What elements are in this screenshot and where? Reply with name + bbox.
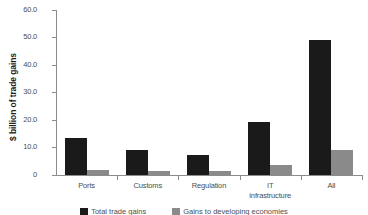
x-axis-category-label-line: Ports — [78, 181, 95, 190]
bar — [187, 155, 209, 175]
x-axis-category-label: Regulation — [178, 181, 239, 191]
x-axis-category-label-line: IT — [267, 181, 273, 190]
x-axis-tick-mark — [362, 175, 363, 180]
bar — [209, 171, 231, 175]
legend-label: Total trade gains — [91, 208, 146, 215]
x-axis-category-label: All — [301, 181, 362, 191]
y-axis-tick-label: 0 — [33, 170, 37, 179]
y-axis-tick-label: 40.0 — [23, 60, 37, 69]
y-axis-title: $ billion of trade gains — [8, 17, 18, 177]
x-axis-category-label: Customs — [117, 181, 178, 191]
x-axis-tick-mark — [117, 175, 118, 180]
x-axis-category-label: ITinfrastructure — [240, 181, 301, 200]
y-axis-tick-label: 10.0 — [23, 142, 37, 151]
chart-legend: Total trade gainsGains to developing eco… — [0, 208, 368, 215]
y-axis-tick-mark — [52, 175, 57, 176]
bar — [331, 150, 353, 175]
x-axis-category-label-line: infrastructure — [240, 191, 301, 201]
legend-entry[interactable]: Total trade gains — [80, 208, 146, 215]
legend-entry[interactable]: Gains to developing economies — [172, 208, 288, 215]
bar — [248, 122, 270, 175]
bar-chart: $ billion of trade gains 010.020.030.040… — [0, 0, 368, 215]
y-axis-tick-mark — [52, 37, 57, 38]
x-axis-category-label: Ports — [56, 181, 117, 191]
y-axis-tick-label: 20.0 — [23, 115, 37, 124]
y-axis-tick-mark — [52, 65, 57, 66]
y-axis-line — [56, 10, 57, 176]
bar — [126, 150, 148, 175]
y-axis-tick-mark — [52, 147, 57, 148]
x-axis-tick-mark — [301, 175, 302, 180]
bar — [148, 171, 170, 175]
bar — [87, 170, 109, 176]
y-axis-tick-mark — [52, 92, 57, 93]
y-axis-tick-label: 50.0 — [23, 32, 37, 41]
legend-swatch — [172, 208, 180, 215]
x-axis-line — [56, 175, 362, 176]
legend-label: Gains to developing economies — [183, 208, 288, 215]
bar — [65, 138, 87, 175]
x-axis-category-label-line: Customs — [134, 181, 163, 190]
y-axis-tick-label: 60.0 — [23, 5, 37, 14]
x-axis-category-label-line: All — [327, 181, 335, 190]
x-axis-category-label-line: Regulation — [192, 181, 226, 190]
x-axis-tick-mark — [240, 175, 241, 180]
bar — [270, 165, 292, 175]
y-axis-tick-label: 30.0 — [23, 87, 37, 96]
bar — [309, 40, 331, 175]
y-axis-tick-mark — [52, 10, 57, 11]
x-axis-tick-mark — [178, 175, 179, 180]
y-axis-tick-mark — [52, 120, 57, 121]
legend-swatch — [80, 208, 88, 215]
